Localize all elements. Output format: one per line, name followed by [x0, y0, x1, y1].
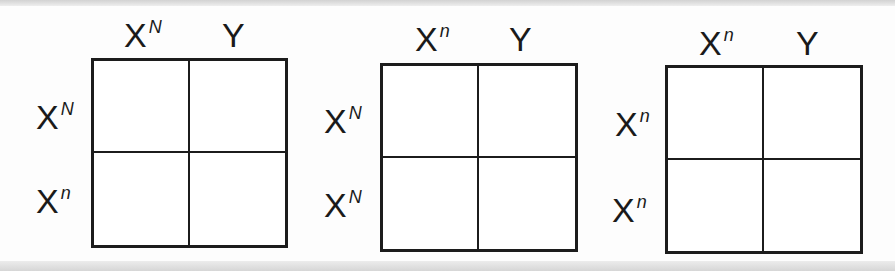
- allele-base: X: [36, 182, 59, 220]
- allele-base: X: [124, 16, 147, 54]
- allele-base: X: [324, 186, 347, 224]
- grid-cell: [764, 160, 860, 252]
- column-allele-3-2: Y: [796, 18, 821, 60]
- grid-cell: [668, 68, 764, 160]
- allele-superscript: n: [61, 183, 71, 203]
- grid-cell: [383, 66, 479, 158]
- allele-superscript: N: [149, 17, 162, 37]
- column-allele-2-1: Xn: [415, 14, 450, 56]
- grid-cell: [764, 68, 860, 160]
- top-edge-shading: [0, 0, 895, 6]
- row-allele-2-1: XN: [324, 96, 362, 138]
- column-allele-1-1: XN: [124, 10, 162, 52]
- allele-base: Y: [222, 16, 245, 54]
- row-allele-3-2: Xn: [612, 185, 647, 227]
- allele-base: X: [415, 20, 438, 58]
- grid-cell: [190, 153, 286, 245]
- allele-superscript: N: [349, 187, 362, 207]
- row-allele-1-1: XN: [36, 92, 74, 134]
- allele-base: X: [612, 191, 635, 229]
- column-allele-1-2: Y: [222, 10, 247, 52]
- grid-cell: [190, 61, 286, 153]
- allele-base: X: [324, 102, 347, 140]
- allele-superscript: N: [61, 99, 74, 119]
- allele-base: X: [36, 98, 59, 136]
- row-allele-2-2: XN: [324, 180, 362, 222]
- grid-cell: [479, 66, 575, 158]
- punnett-grid-2: [380, 63, 578, 252]
- grid-cell: [94, 153, 190, 245]
- punnett-grid-3: [665, 65, 863, 254]
- allele-base: Y: [509, 20, 532, 58]
- row-allele-3-1: Xn: [615, 99, 650, 141]
- allele-superscript: n: [640, 106, 650, 126]
- allele-superscript: N: [349, 103, 362, 123]
- allele-base: X: [699, 24, 722, 62]
- allele-superscript: n: [637, 192, 647, 212]
- column-allele-3-1: Xn: [699, 18, 734, 60]
- grid-cell: [383, 158, 479, 250]
- bottom-edge-shading: [0, 261, 895, 271]
- allele-superscript: n: [724, 25, 734, 45]
- allele-superscript: n: [440, 21, 450, 41]
- allele-base: X: [615, 105, 638, 143]
- column-allele-2-2: Y: [509, 14, 534, 56]
- grid-cell: [94, 61, 190, 153]
- allele-base: Y: [796, 24, 819, 62]
- grid-cell: [668, 160, 764, 252]
- row-allele-1-2: Xn: [36, 176, 71, 218]
- punnett-grid-1: [91, 58, 288, 248]
- grid-cell: [479, 158, 575, 250]
